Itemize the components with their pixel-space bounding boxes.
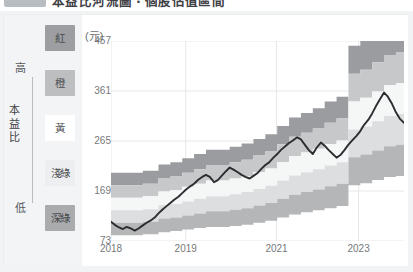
pe-axis-title-char-2: 益	[6, 118, 22, 132]
pe-axis-title: 本 益 比	[6, 104, 22, 145]
chart-card: 高 低 本 益 比 紅 橙 黃 淺綠 深綠 (元) 73169265361457	[0, 11, 413, 272]
legend-item-light-green[interactable]: 淺綠	[45, 160, 75, 186]
pe-axis-title-char-3: 比	[6, 131, 22, 145]
pe-river-plot[interactable]	[111, 41, 404, 241]
x-axis-tick: 2018	[100, 243, 122, 254]
pe-legend-panel: 高 低 本 益 比 紅 橙 黃 淺綠 深綠	[4, 15, 82, 266]
x-axis-tick: 2019	[175, 243, 197, 254]
pe-scale-high-label: 高	[15, 62, 26, 74]
x-axis-tick: 2021	[265, 243, 287, 254]
pe-scale-line	[32, 77, 33, 203]
legend-item-dark-green[interactable]: 深綠	[45, 205, 75, 231]
plot-wrapper	[82, 41, 408, 241]
page-title-strip: 本益比河流圖 ‧ 個股估值區間	[0, 0, 413, 11]
pe-axis-title-char-1: 本	[6, 104, 22, 118]
x-axis-tick-labels: 2018201920212023	[111, 243, 404, 259]
legend-item-red[interactable]: 紅	[45, 25, 75, 51]
chart-card-inner: 高 低 本 益 比 紅 橙 黃 淺綠 深綠 (元) 73169265361457	[3, 14, 407, 265]
title-badge	[4, 0, 46, 7]
legend-item-yellow[interactable]: 黃	[45, 115, 75, 141]
page-title: 本益比河流圖 ‧ 個股估值區間	[52, 0, 225, 10]
legend-swatch-list: 紅 橙 黃 淺綠 深綠	[45, 25, 75, 257]
pe-scale-low-label: 低	[15, 202, 26, 214]
x-axis-tick: 2023	[347, 243, 369, 254]
chart-region: (元) 73169265361457 2018201920212023	[82, 15, 408, 266]
legend-item-orange[interactable]: 橙	[45, 70, 75, 96]
river-chart-svg	[111, 41, 404, 241]
